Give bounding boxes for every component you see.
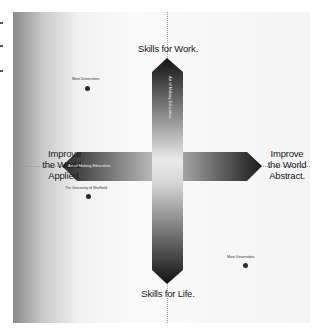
- pole-skills-for-work: Skills for Work.: [133, 43, 203, 54]
- point-dot-sheffield: [86, 194, 91, 199]
- point-label-bottom-right: Most Universities: [227, 255, 254, 259]
- pole-skills-for-life: Skills for Life.: [133, 288, 203, 299]
- edge-marks: [0, 0, 10, 80]
- top-arm-label: Art of Making Education: [168, 76, 173, 118]
- point-dot-top-left: [85, 86, 90, 91]
- point-dot-bottom-right: [243, 263, 248, 268]
- quadrant-diagram: Skills for Work. Skills for Life. Improv…: [13, 12, 310, 323]
- point-label-top-left: Most Universities: [72, 77, 99, 81]
- point-label-sheffield: The University of Sheffield: [65, 186, 107, 190]
- left-arm-label: Art of Making Education: [68, 163, 110, 168]
- pole-improve-world-abstract: Improve the World Abstract.: [263, 148, 310, 181]
